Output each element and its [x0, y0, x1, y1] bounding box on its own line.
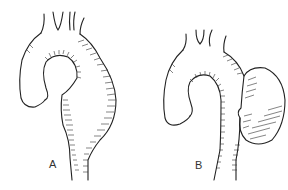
panel-b-label: B [195, 160, 202, 171]
aneurysm-sac-shading [243, 77, 282, 139]
panel-b-aorta [164, 30, 285, 180]
panel-a-aorta [20, 12, 116, 180]
panel-a-label: A [49, 159, 56, 170]
aorta-illustration: A B [0, 0, 288, 190]
panel-b-hatching [170, 55, 242, 170]
aorta-drawing-svg [0, 0, 288, 190]
